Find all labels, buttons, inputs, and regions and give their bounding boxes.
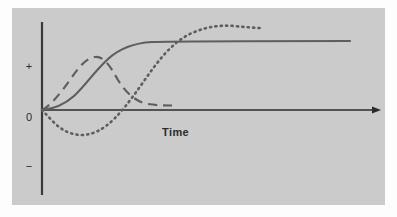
- plot-panel: + 0 − Time: [12, 8, 385, 205]
- x-axis-arrowhead: [372, 107, 381, 114]
- y-tick-label-zero: 0: [21, 112, 37, 123]
- x-axis-title: Time: [162, 126, 189, 138]
- solid-curve: [42, 41, 350, 110]
- plot-svg: [12, 8, 385, 205]
- y-tick-label-negative: −: [21, 161, 37, 172]
- y-tick-label-positive: +: [21, 61, 37, 72]
- figure-root: + 0 − Time: [0, 0, 397, 217]
